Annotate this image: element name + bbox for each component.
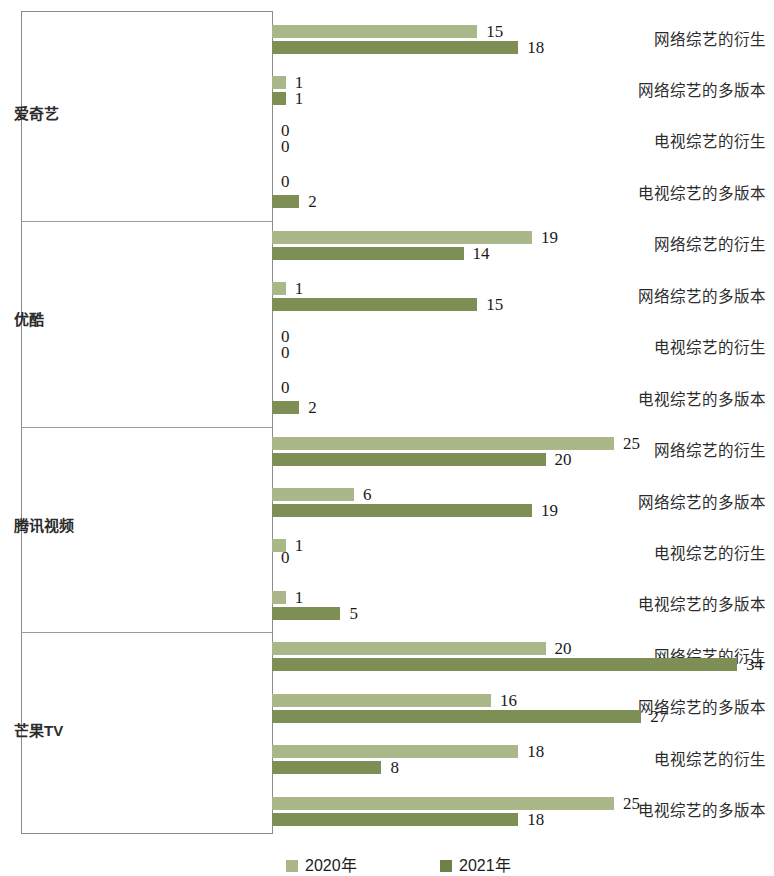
bar-value-label: 20 xyxy=(555,642,572,655)
bar-2021 xyxy=(272,658,737,671)
legend-item-2020[interactable]: 2020年 xyxy=(286,855,357,876)
bar-value-label: 6 xyxy=(363,488,372,501)
chart-legend: 2020年 2021年 xyxy=(0,855,774,876)
bar-2021 xyxy=(272,453,546,466)
bar-2020 xyxy=(272,694,491,707)
bar-value-label: 15 xyxy=(486,298,503,311)
bar-2021 xyxy=(272,710,641,723)
group-label: 爱奇艺 xyxy=(14,106,110,121)
grouped-bar-chart: 爱奇艺网络综艺的衍生网络综艺的多版本电视综艺的衍生电视综艺的多版本优酷网络综艺的… xyxy=(0,0,774,876)
bar-value-label: 20 xyxy=(555,453,572,466)
bar-value-label: 1 xyxy=(295,76,304,89)
bar-2020 xyxy=(272,76,286,89)
bar-2021 xyxy=(272,607,340,620)
bar-value-label: 2 xyxy=(308,195,317,208)
bar-value-label: 0 xyxy=(281,346,290,359)
bar-value-label: 5 xyxy=(349,607,358,620)
bar-2020 xyxy=(272,591,286,604)
category-label-box xyxy=(21,11,273,834)
legend-label-2021: 2021年 xyxy=(459,858,511,874)
legend-item-2021[interactable]: 2021年 xyxy=(440,855,511,876)
group-label: 优酷 xyxy=(14,312,110,327)
group-label: 芒果TV xyxy=(14,723,110,738)
group-separator xyxy=(21,427,273,428)
legend-swatch-2021-icon xyxy=(440,860,452,872)
bar-2020 xyxy=(272,231,532,244)
bar-value-label: 1 xyxy=(295,282,304,295)
bar-2020 xyxy=(272,745,518,758)
plot-area: 1518110002191411500022520619101520341627… xyxy=(272,11,774,834)
bar-2020 xyxy=(272,282,286,295)
bar-value-label: 25 xyxy=(623,437,640,450)
bar-value-label: 2 xyxy=(308,401,317,414)
group-label: 腾讯视频 xyxy=(14,518,110,533)
bar-2020 xyxy=(272,25,477,38)
bar-value-label: 25 xyxy=(623,797,640,810)
bar-value-label: 14 xyxy=(473,247,490,260)
bar-2020 xyxy=(272,642,546,655)
group-separator xyxy=(21,221,273,222)
bar-2021 xyxy=(272,195,299,208)
bar-value-label: 18 xyxy=(527,813,544,826)
bar-value-label: 1 xyxy=(295,591,304,604)
bar-value-label: 8 xyxy=(390,761,399,774)
bar-value-label: 19 xyxy=(541,504,558,517)
bar-2021 xyxy=(272,761,381,774)
legend-swatch-2020-icon xyxy=(286,860,298,872)
bar-value-label: 19 xyxy=(541,231,558,244)
bar-value-label: 18 xyxy=(527,745,544,758)
bar-2021 xyxy=(272,504,532,517)
bar-2021 xyxy=(272,813,518,826)
bar-2021 xyxy=(272,401,299,414)
bar-2021 xyxy=(272,247,464,260)
bar-value-label: 27 xyxy=(650,710,667,723)
bar-value-label: 34 xyxy=(746,658,763,671)
bar-value-label: 16 xyxy=(500,694,517,707)
bar-2021 xyxy=(272,298,477,311)
bar-2020 xyxy=(272,437,614,450)
bar-value-label: 1 xyxy=(295,539,304,552)
bar-value-label: 0 xyxy=(281,381,290,394)
bar-value-label: 0 xyxy=(281,175,290,188)
group-separator xyxy=(21,632,273,633)
bar-2021 xyxy=(272,41,518,54)
legend-label-2020: 2020年 xyxy=(305,858,357,874)
bar-value-label: 1 xyxy=(295,92,304,105)
bar-value-label: 18 xyxy=(527,41,544,54)
bar-value-label: 0 xyxy=(281,124,290,137)
bar-value-label: 0 xyxy=(281,551,290,564)
bar-value-label: 0 xyxy=(281,140,290,153)
bar-value-label: 15 xyxy=(486,25,503,38)
bar-value-label: 0 xyxy=(281,330,290,343)
bar-2021 xyxy=(272,92,286,105)
bar-2020 xyxy=(272,488,354,501)
bar-2020 xyxy=(272,797,614,810)
